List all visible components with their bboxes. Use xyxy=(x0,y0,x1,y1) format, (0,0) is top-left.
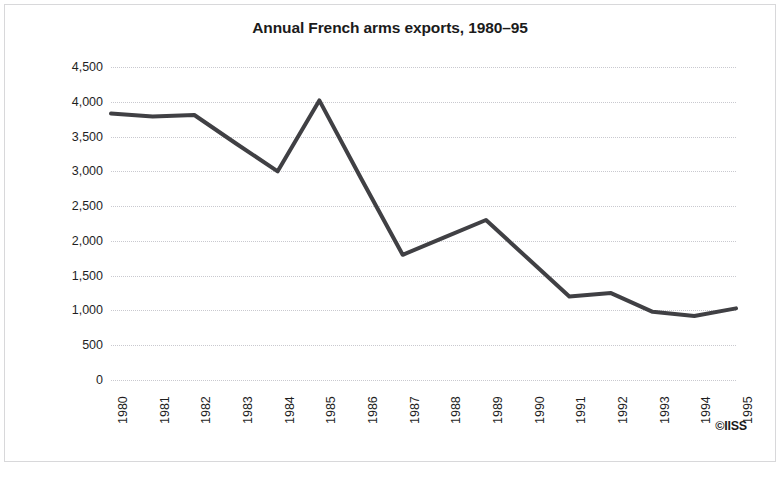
x-axis-tick-label: 1981 xyxy=(158,396,172,424)
x-axis-tick-label: 1987 xyxy=(408,396,422,424)
page-title: Annual French arms exports, 1980–95 xyxy=(5,19,775,37)
x-axis-tick-label: 1994 xyxy=(699,396,713,424)
x-axis-tick-label: 1986 xyxy=(366,396,380,424)
y-axis-tick-label: 1,500 xyxy=(33,269,103,283)
y-axis-tick-labels: 05001,0001,5002,0002,5003,0003,5004,0004… xyxy=(31,67,103,380)
x-axis-tick-label: 1984 xyxy=(283,396,297,424)
chart-figure: Annual French arms exports, 1980–95 Mill… xyxy=(4,4,776,462)
series-line-exports xyxy=(111,100,736,316)
y-axis-tick-label: 2,500 xyxy=(33,199,103,213)
copyright-credit: ©IISS xyxy=(715,419,747,433)
y-axis-tick-label: 1,000 xyxy=(33,303,103,317)
x-axis-tick-label: 1983 xyxy=(241,396,255,424)
y-axis-tick-label: 4,000 xyxy=(33,95,103,109)
y-axis-tick-label: 4,500 xyxy=(33,60,103,74)
x-axis-tick-label: 1989 xyxy=(491,396,505,424)
x-axis-tick-label: 1991 xyxy=(574,396,588,424)
y-axis-tick-label: 0 xyxy=(33,373,103,387)
x-axis-tick-label: 1992 xyxy=(616,396,630,424)
x-axis-tick-label: 1982 xyxy=(199,396,213,424)
plot-area xyxy=(111,67,736,380)
series-line-chart xyxy=(111,67,736,380)
y-axis-tick-label: 3,000 xyxy=(33,164,103,178)
x-axis-tick-label: 1985 xyxy=(324,396,338,424)
x-axis-tick-label: 1988 xyxy=(449,396,463,424)
y-axis-tick-label: 3,500 xyxy=(33,130,103,144)
x-axis-tick-label: 1980 xyxy=(116,396,130,424)
x-axis-tick-label: 1990 xyxy=(533,396,547,424)
y-axis-tick-label: 2,000 xyxy=(33,234,103,248)
x-axis-tick-label: 1993 xyxy=(658,396,672,424)
y-axis-tick-label: 500 xyxy=(33,338,103,352)
x-axis-tick-labels: 1980198119821983198419851986198719881989… xyxy=(111,380,736,436)
